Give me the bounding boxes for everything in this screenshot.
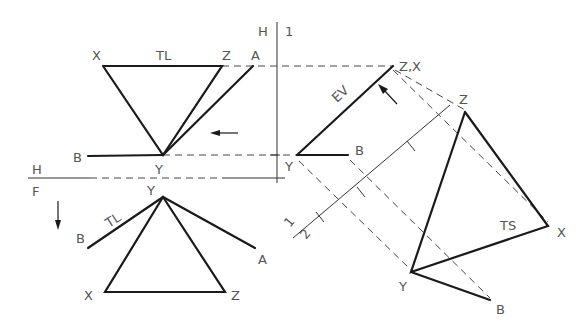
- left-arrow-icon: [210, 130, 238, 136]
- down-arrow-icon: [55, 201, 61, 230]
- front-label-tl: TL: [102, 209, 124, 231]
- aux1-label-y: Y: [284, 159, 293, 174]
- aux1-label-ev: EV: [329, 82, 352, 105]
- top-label-y: Y: [154, 162, 163, 177]
- top-label-b: B: [73, 150, 82, 165]
- fold-label-1b: 1: [281, 214, 298, 230]
- aux2-label-b: B: [496, 302, 505, 317]
- fold-label-h-top: H: [32, 162, 42, 177]
- top-label-x: X: [92, 48, 101, 63]
- fold-label-2: 2: [297, 226, 314, 242]
- front-label-y: Y: [146, 183, 155, 198]
- perpendicular-arrow-icon: [378, 84, 397, 104]
- top-label-z: Z: [222, 48, 231, 63]
- aux2-label-x: X: [557, 225, 566, 240]
- fold-line-1-2: 1 2: [281, 105, 450, 242]
- front-label-a: A: [258, 252, 267, 267]
- aux1-label-zx: Z,X: [399, 59, 421, 74]
- aux2-label-ts: TS: [499, 218, 516, 233]
- top-label-a: A: [251, 48, 260, 63]
- descriptive-geometry-drawing: H 1 H F 1 2 X TL Z A B Y: [0, 0, 587, 328]
- fold-label-f: F: [32, 184, 39, 199]
- front-label-x: X: [84, 288, 93, 303]
- top-view: X TL Z A B Y: [73, 48, 260, 177]
- fold-label-1: 1: [285, 24, 293, 39]
- aux1-label-b: B: [355, 143, 364, 158]
- front-view: Y TL B A X Z: [55, 183, 267, 303]
- top-label-tl: TL: [155, 48, 172, 63]
- aux2-label-z: Z: [459, 92, 468, 107]
- aux2-label-y: Y: [398, 279, 407, 294]
- front-label-b: B: [76, 231, 85, 246]
- auxiliary-view-1: Z,X EV B Y: [270, 59, 421, 174]
- fold-label-h: H: [258, 24, 268, 39]
- auxiliary-view-2: Z X Y B TS: [398, 92, 566, 317]
- front-label-z: Z: [231, 288, 240, 303]
